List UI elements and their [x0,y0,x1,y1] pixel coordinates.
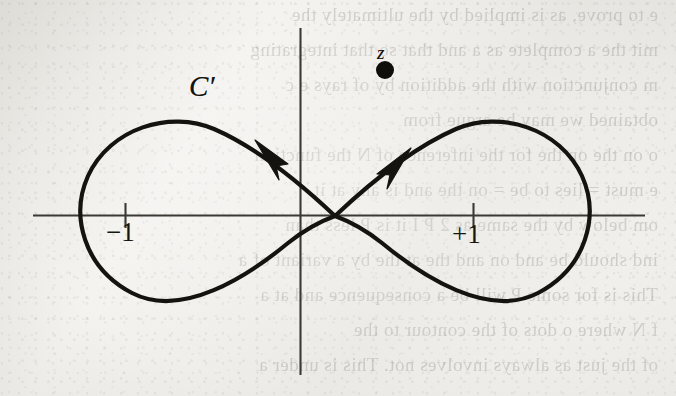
contour-direction-arrows [255,140,411,189]
contour-left-loop [80,122,335,301]
point-z-marker [376,61,394,79]
figure-container: e to prove, as is implied by the ultimat… [0,0,676,396]
contour-right-loop [335,122,590,301]
tick-label-minus-one: −1 [106,219,135,246]
contour-plot-svg [0,0,676,396]
tick-label-plus-one: +1 [452,221,481,248]
right-loop-arrow-icon [377,148,411,189]
contour-label-c-prime: C′ [189,72,215,101]
point-label-z: z [377,43,384,62]
contour-curve-group [80,122,589,301]
left-loop-arrow-icon [255,140,288,180]
